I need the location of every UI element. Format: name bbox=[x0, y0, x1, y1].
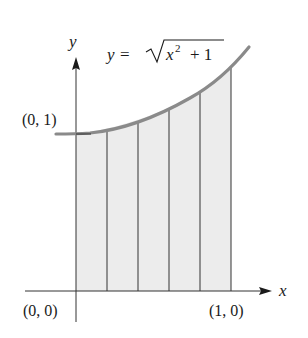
y-axis-label: y bbox=[67, 32, 77, 51]
equation-lhs: y bbox=[105, 45, 115, 64]
x-axis-label: x bbox=[278, 281, 287, 300]
equation-label: y = x 2 + 1 bbox=[105, 40, 224, 64]
area-under-curve-diagram: y = x 2 + 1 y x (0, 1) (0, 0) (1, 0) bbox=[0, 0, 308, 338]
point-label-0-0: (0, 0) bbox=[23, 302, 58, 320]
shaded-region bbox=[76, 69, 231, 291]
point-label-1-0: (1, 0) bbox=[209, 302, 244, 320]
equation-radicand-base: x bbox=[165, 45, 174, 64]
point-label-0-1: (0, 1) bbox=[22, 111, 57, 129]
equation-equals: = bbox=[120, 45, 130, 64]
equation-radicand-rest: + 1 bbox=[190, 45, 212, 64]
equation-exponent: 2 bbox=[175, 42, 181, 54]
